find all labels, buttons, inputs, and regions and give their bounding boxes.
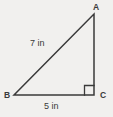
triangle-diagram: A B C 7 in 5 in [0, 0, 113, 117]
vertex-label-b: B [4, 90, 10, 100]
right-angle-marker-icon [85, 86, 95, 96]
vertex-label-c: C [100, 90, 106, 100]
triangle-outline [14, 14, 94, 95]
right-triangle-figure: A B C 7 in 5 in [0, 0, 113, 117]
base-length-label: 5 in [44, 101, 59, 111]
vertex-label-a: A [93, 2, 99, 12]
hypotenuse-length-label: 7 in [30, 38, 45, 48]
